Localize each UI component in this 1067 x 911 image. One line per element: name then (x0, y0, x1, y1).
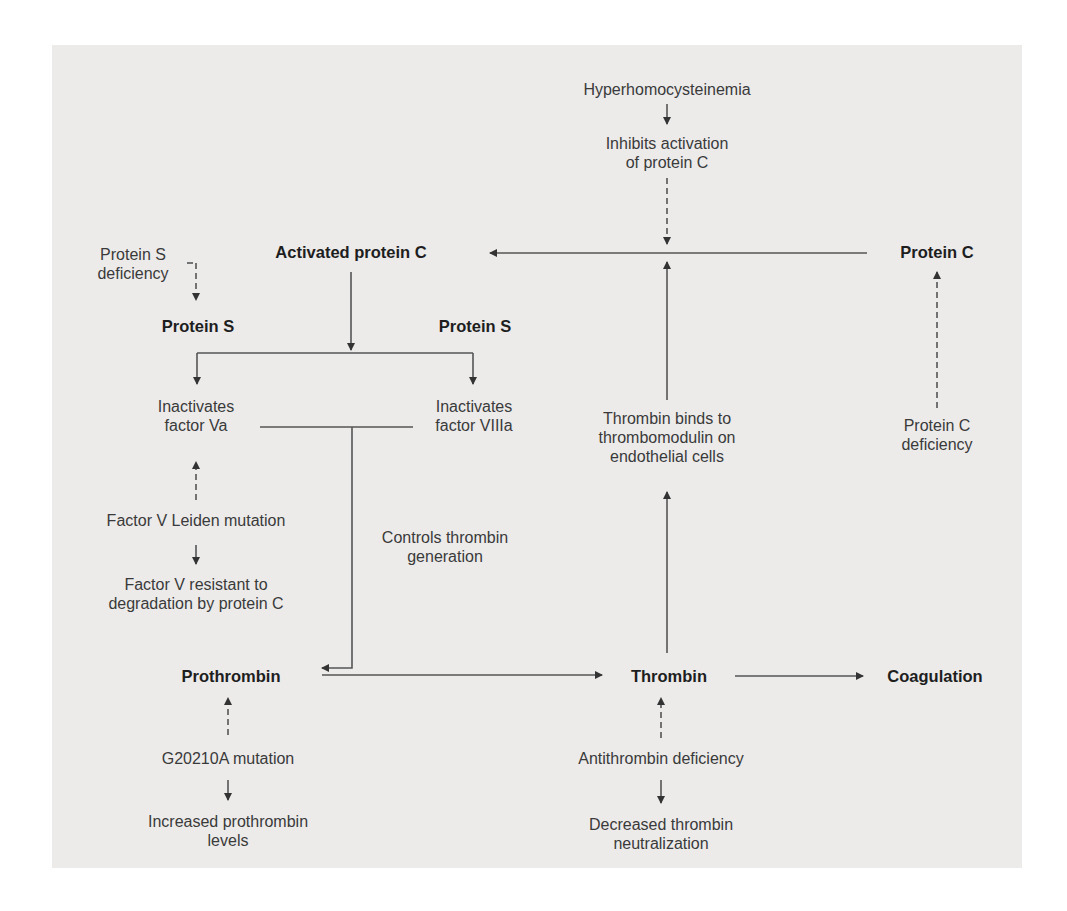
node-factor-v-resistant: Factor V resistant to degradation by pro… (108, 575, 283, 613)
node-protein-s-left: Protein S (162, 317, 234, 336)
arrow-controls-to-prothrombin (322, 427, 352, 668)
node-protein-c: Protein C (900, 243, 973, 262)
node-inhibits-activation: Inhibits activation of protein C (606, 134, 729, 172)
node-activated-protein-c: Activated protein C (275, 243, 426, 262)
node-inactivates-viiia: Inactivates factor VIIIa (435, 397, 512, 435)
node-protein-s-deficiency: Protein S deficiency (97, 245, 168, 283)
node-inactivates-va: Inactivates factor Va (158, 397, 234, 435)
node-g20210a: G20210A mutation (162, 749, 295, 768)
node-protein-c-deficiency: Protein C deficiency (901, 416, 972, 454)
node-antithrombin-deficiency: Antithrombin deficiency (578, 749, 743, 768)
node-protein-s-right: Protein S (439, 317, 511, 336)
node-coagulation: Coagulation (887, 667, 982, 686)
node-thrombin: Thrombin (631, 667, 707, 686)
node-factor-v-leiden: Factor V Leiden mutation (107, 511, 286, 530)
node-prothrombin: Prothrombin (182, 667, 281, 686)
node-thrombin-binds: Thrombin binds to thrombomodulin on endo… (599, 409, 736, 466)
node-controls-thrombin: Controls thrombin generation (382, 528, 508, 566)
node-decreased-neutralization: Decreased thrombin neutralization (589, 815, 733, 853)
node-increased-prothrombin: Increased prothrombin levels (148, 812, 308, 850)
node-hyperhomocysteinemia: Hyperhomocysteinemia (583, 80, 750, 99)
diagram-connectors (0, 0, 1067, 911)
